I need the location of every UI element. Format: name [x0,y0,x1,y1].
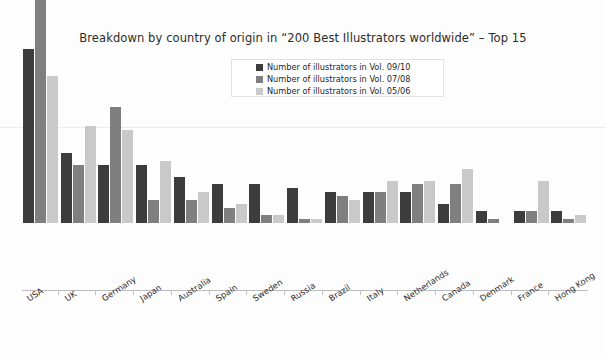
bar-item[interactable]: 10 [212,0,223,223]
bar-item[interactable]: 24 [122,0,133,223]
bar[interactable]: 3 [551,211,562,223]
bar-item[interactable]: 25 [85,0,96,223]
bar-group: 456338 [23,0,58,223]
bar[interactable]: 3 [476,211,487,223]
bar-item[interactable]: 15 [98,0,109,223]
bar[interactable]: 10 [450,184,461,223]
bar[interactable]: 11 [387,181,398,224]
bar-item[interactable]: 6 [349,0,360,223]
bar-group: 153024 [98,0,133,223]
bar-item[interactable]: 4 [224,0,235,223]
bar[interactable]: 2 [261,215,272,223]
bar[interactable]: 10 [249,184,260,223]
bar-item[interactable]: 11 [424,0,435,223]
bar[interactable]: 6 [349,200,360,223]
bar-item[interactable]: 9 [287,0,298,223]
bar[interactable]: 10 [212,184,223,223]
bar[interactable]: 25 [85,126,96,223]
bar[interactable]: 6 [148,200,159,223]
bar[interactable]: 12 [174,177,185,223]
bar-group: 15616 [136,0,171,223]
bar[interactable]: 5 [236,204,247,223]
bar[interactable]: 10 [412,184,423,223]
bar-item[interactable]: 8 [375,0,386,223]
bar[interactable]: 63 [35,0,46,223]
bar[interactable]: 15 [73,165,84,223]
bar[interactable]: 2 [273,215,284,223]
bar[interactable]: 7 [337,196,348,223]
bar-item[interactable]: 1 [488,0,499,223]
x-axis-label: UK [63,289,78,304]
bar-item[interactable]: 1 [311,0,322,223]
bar[interactable]: 11 [424,181,435,224]
bar-item[interactable]: 8 [325,0,336,223]
bar-item[interactable]: 3 [551,0,562,223]
bar-item[interactable]: 6 [148,0,159,223]
bar[interactable]: 9 [287,188,298,223]
bar-item[interactable]: 8 [198,0,209,223]
bar[interactable]: 8 [363,192,374,223]
bar-item[interactable]: 7 [337,0,348,223]
bar-item[interactable]: 6 [186,0,197,223]
legend-item: Number of illustrators in Vol. 09/10 [256,62,443,73]
bar-item[interactable]: 12 [174,0,185,223]
bar-item[interactable]: 0 [500,0,511,223]
bar[interactable]: 16 [160,161,171,223]
bar[interactable]: 45 [23,49,34,223]
bar[interactable]: 8 [325,192,336,223]
x-axis-labels: USAUKGermanyJapanAustraliaSpainSwedenRus… [0,291,606,358]
bar[interactable]: 15 [98,165,109,223]
bar[interactable]: 14 [462,169,473,223]
bar-group: 310 [476,0,511,223]
bar[interactable]: 2 [575,215,586,223]
bar[interactable]: 3 [526,211,537,223]
bar[interactable]: 1 [311,219,322,223]
chart-legend: Number of illustrators in Vol. 09/10Numb… [231,59,444,97]
bar-item[interactable]: 16 [160,0,171,223]
legend-swatch-icon [256,76,263,83]
bar-group: 1268 [174,0,209,223]
bar-item[interactable]: 1 [563,0,574,223]
bar[interactable]: 4 [224,208,235,223]
bar-item[interactable]: 5 [438,0,449,223]
bar-item[interactable]: 3 [476,0,487,223]
bar[interactable]: 30 [110,107,121,223]
bar-item[interactable]: 10 [450,0,461,223]
bar-item[interactable]: 45 [23,0,34,223]
bar-item[interactable]: 2 [261,0,272,223]
bar[interactable]: 3 [514,211,525,223]
bar[interactable]: 1 [563,219,574,223]
bar-item[interactable]: 3 [526,0,537,223]
bar-item[interactable]: 3 [514,0,525,223]
bar[interactable]: 6 [186,200,197,223]
bar-item[interactable]: 38 [47,0,58,223]
bar[interactable]: 8 [375,192,386,223]
bar-item[interactable]: 8 [363,0,374,223]
bar[interactable]: 24 [122,130,133,223]
bar-item[interactable]: 2 [575,0,586,223]
bar-item[interactable]: 30 [110,0,121,223]
bar[interactable]: 18 [61,153,72,223]
bar-item[interactable]: 11 [538,0,549,223]
bar[interactable]: 15 [136,165,147,223]
bar-item[interactable]: 11 [387,0,398,223]
bar-item[interactable]: 10 [412,0,423,223]
bar-item[interactable]: 15 [73,0,84,223]
bar[interactable]: 1 [299,219,310,223]
bar-item[interactable]: 63 [35,0,46,223]
bar-item[interactable]: 18 [61,0,72,223]
bar[interactable]: 11 [538,181,549,224]
bar-item[interactable]: 14 [462,0,473,223]
bar[interactable]: 8 [400,192,411,223]
bar[interactable]: 8 [198,192,209,223]
bar-item[interactable]: 15 [136,0,147,223]
bar-item[interactable]: 1 [299,0,310,223]
bar[interactable]: 38 [47,76,58,223]
bar[interactable]: 5 [438,204,449,223]
bar-item[interactable]: 10 [249,0,260,223]
bar[interactable]: 1 [488,219,499,223]
bar-chart: Breakdown by country of origin in “200 B… [0,0,606,358]
bar-item[interactable]: 8 [400,0,411,223]
bar-item[interactable]: 2 [273,0,284,223]
bar-item[interactable]: 5 [236,0,247,223]
